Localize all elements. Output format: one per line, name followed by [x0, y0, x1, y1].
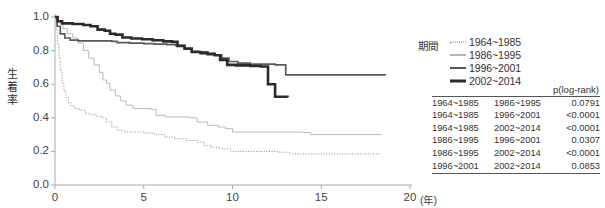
y-tick-label: 0.8	[11, 44, 49, 56]
legend-items: 1964~19851986~19951996~20012002~2014	[450, 36, 521, 88]
x-tick-label: 10	[213, 191, 253, 203]
pvalue-group-b: 2002~2014	[494, 147, 556, 160]
y-tick-label: 0.0	[11, 178, 49, 190]
y-tick-label: 0.6	[11, 77, 49, 89]
legend-item-label: 1996~2001	[469, 62, 521, 74]
legend-line-swatch-icon	[450, 37, 466, 47]
legend-line-swatch-icon	[450, 50, 466, 60]
pvalue-table-row: 1964~19851986~19950.0791	[432, 97, 600, 110]
pvalue-value: <0.0001	[556, 110, 600, 123]
pvalue-group-b: 2002~2014	[494, 122, 556, 135]
pvalue-group-b: 2002~2014	[494, 160, 556, 173]
pvalue-group-a: 1964~1985	[432, 122, 494, 135]
pvalue-group-a: 1986~1995	[432, 135, 494, 148]
pvalue-table-row: 1996~20012002~20140.0853	[432, 160, 600, 173]
pvalue-table-row: 1964~19852002~2014<0.0001	[432, 122, 600, 135]
pvalue-table-header: p(log-rank)	[432, 84, 600, 96]
pvalue-value: <0.0001	[556, 147, 600, 160]
tick-marks	[51, 17, 410, 189]
pvalue-group-b: 1986~1995	[494, 97, 556, 110]
pvalue-group-a: 1996~2001	[432, 160, 494, 173]
pvalue-group-b: 1996~2001	[494, 110, 556, 123]
legend-item: 1996~2001	[450, 62, 521, 74]
pvalue-group-a: 1964~1985	[432, 110, 494, 123]
pvalue-group-a: 1986~1995	[432, 147, 494, 160]
y-tick-label: 0.4	[11, 111, 49, 123]
series-line-2002-2014	[55, 17, 288, 97]
axis-lines	[55, 14, 412, 185]
pvalue-table-row: 1986~19951996~20010.0307	[432, 135, 600, 148]
legend-item-label: 1986~1995	[469, 49, 521, 61]
figure-root: 生 着 率 0.00.20.40.60.81.0 05101520 (年) 期間…	[0, 0, 605, 208]
legend-item: 1986~1995	[450, 49, 521, 61]
series-line-1996-2001	[55, 17, 385, 75]
x-tick-label: 15	[301, 191, 341, 203]
plot-canvas	[0, 0, 420, 208]
legend-line-swatch-icon	[450, 63, 466, 73]
x-axis-unit-label: (年)	[420, 192, 437, 207]
y-tick-label: 0.2	[11, 144, 49, 156]
series-line-1964-1985	[55, 17, 380, 154]
x-tick-label: 0	[35, 191, 75, 203]
pvalue-value: 0.0307	[556, 135, 600, 148]
pvalue-table-grid: 1964~19851986~19950.07911964~19851996~20…	[432, 96, 600, 174]
pvalue-table-row: 1964~19851996~2001<0.0001	[432, 110, 600, 123]
pvalue-group-a: 1964~1985	[432, 97, 494, 110]
legend-title: 期間	[418, 38, 438, 53]
series-lines	[55, 17, 385, 154]
legend-item-label: 1964~1985	[469, 36, 521, 48]
survival-chart: 生 着 率 0.00.20.40.60.81.0 05101520 (年)	[0, 0, 420, 208]
pvalue-group-b: 1996~2001	[494, 135, 556, 148]
pvalue-value: 0.0853	[556, 160, 600, 173]
y-tick-label: 1.0	[11, 10, 49, 22]
pvalue-value: 0.0791	[556, 97, 600, 110]
pvalue-table-row: 1986~19952002~2014<0.0001	[432, 147, 600, 160]
legend-item: 1964~1985	[450, 36, 521, 48]
x-tick-label: 5	[124, 191, 164, 203]
pvalue-value: <0.0001	[556, 122, 600, 135]
pvalue-table: p(log-rank) 1964~19851986~19950.07911964…	[432, 84, 600, 174]
